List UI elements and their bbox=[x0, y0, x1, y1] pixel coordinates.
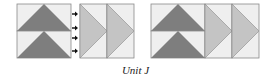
arrow-icons bbox=[72, 12, 78, 54]
group-before-assembly bbox=[17, 4, 134, 58]
arrow-right-icon bbox=[72, 36, 78, 41]
group-after-assembly bbox=[151, 4, 259, 58]
diagram-caption: Unit J bbox=[0, 64, 271, 76]
side-flying-geese bbox=[205, 4, 259, 58]
arrow-right-icon bbox=[72, 26, 78, 31]
arrow-right-icon bbox=[72, 12, 78, 17]
stacked-flying-geese bbox=[151, 4, 205, 58]
side-flying-geese bbox=[80, 4, 134, 58]
arrow-right-icon bbox=[72, 49, 78, 54]
stacked-flying-geese bbox=[17, 4, 71, 58]
